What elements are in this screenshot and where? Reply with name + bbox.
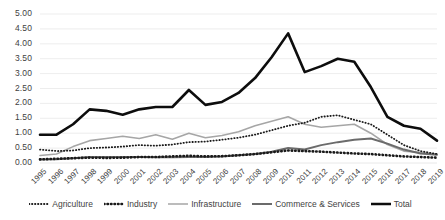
legend-label: Industry [127,199,157,209]
legend-label: Commerce & Services [275,199,360,209]
legend-label: Infrastructure [191,199,241,209]
legend-item-infrastructure[interactable]: Infrastructure [168,199,241,209]
legend-swatch-icon [104,200,124,208]
chart-legend: AgricultureIndustryInfrastructureCommerc… [0,196,441,212]
legend-item-commerce-services[interactable]: Commerce & Services [252,199,360,209]
legend-swatch-icon [252,200,272,208]
legend-swatch-icon [168,200,188,208]
series-line-commerce-services [40,139,437,160]
legend-label: Agriculture [52,199,93,209]
series-line-industry [40,150,437,159]
legend-swatch-icon [371,200,391,208]
series-lines [40,33,437,159]
legend-label: Total [394,199,412,209]
series-line-total [40,33,437,140]
legend-item-agriculture[interactable]: Agriculture [29,199,93,209]
legend-item-industry[interactable]: Industry [104,199,157,209]
legend-item-total[interactable]: Total [371,199,412,209]
legend-swatch-icon [29,200,49,208]
series-line-infrastructure [40,117,437,156]
